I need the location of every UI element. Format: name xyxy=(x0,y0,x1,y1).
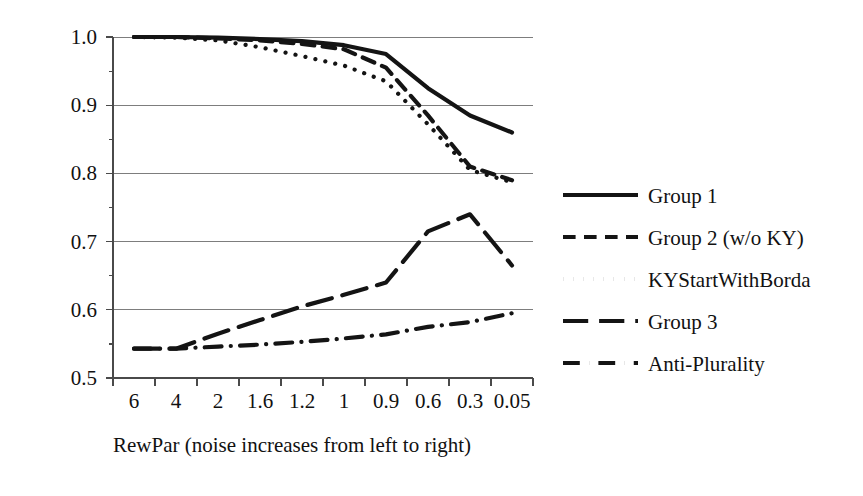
legend-label: Group 1 xyxy=(648,184,717,208)
legend-label: Group 2 (w/o KY) xyxy=(648,226,804,250)
x-tick-label: 2 xyxy=(213,389,224,413)
x-tick-label: 0.05 xyxy=(494,389,531,413)
chart-figure: 1.00.90.80.70.60.5 6421.61.210.90.60.30.… xyxy=(0,0,863,496)
x-tick-label: 1.6 xyxy=(247,389,273,413)
x-tick-label: 0.9 xyxy=(373,389,399,413)
legend-label: Group 3 xyxy=(648,310,717,334)
x-tick-label: 0.3 xyxy=(457,389,483,413)
y-tick-label: 0.9 xyxy=(71,93,97,117)
y-tick-label: 0.6 xyxy=(71,298,97,322)
legend-label: Anti-Plurality xyxy=(648,352,765,376)
x-tick-label: 0.6 xyxy=(415,389,441,413)
y-tick-label: 0.7 xyxy=(71,230,97,254)
x-tick-label: 6 xyxy=(129,389,140,413)
legend-label: KYStartWithBorda xyxy=(648,268,811,292)
y-tick-label: 0.5 xyxy=(71,366,97,390)
x-tick-label: 1 xyxy=(339,389,350,413)
y-tick-label: 1.0 xyxy=(71,25,97,49)
y-tick-label: 0.8 xyxy=(71,161,97,185)
x-tick-label: 4 xyxy=(171,389,182,413)
x-tick-label: 1.2 xyxy=(289,389,315,413)
x-axis-title: RewPar (noise increases from left to rig… xyxy=(113,433,471,457)
line-chart: 1.00.90.80.70.60.5 6421.61.210.90.60.30.… xyxy=(0,0,863,496)
